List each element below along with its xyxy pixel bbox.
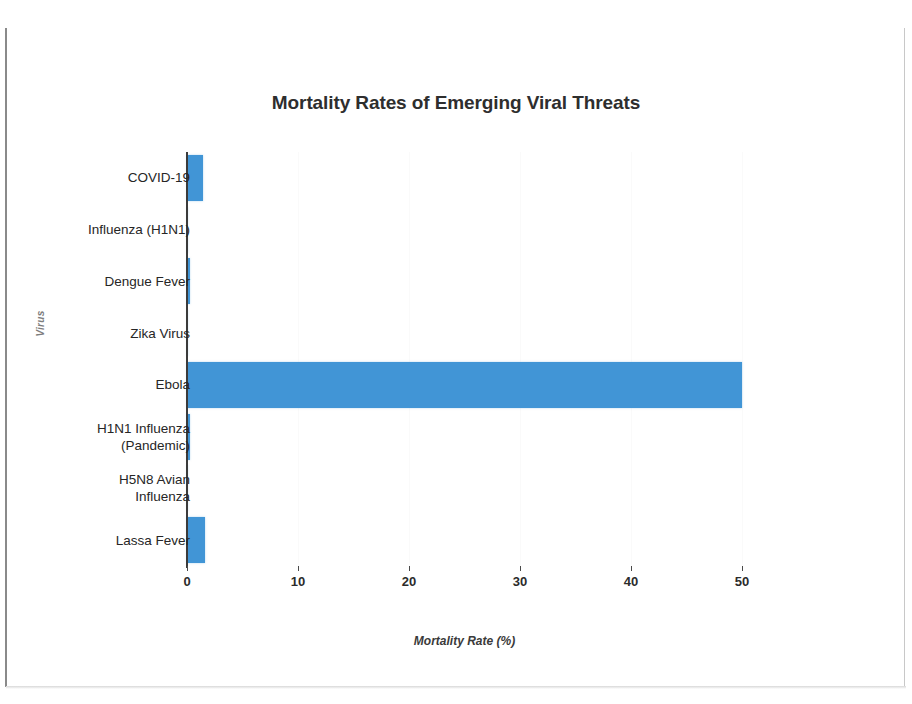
y-tick-label-line: Zika Virus <box>0 325 190 342</box>
gridline <box>742 152 743 566</box>
x-tick-label: 0 <box>157 574 217 589</box>
y-tick-label: COVID-19 <box>0 169 190 186</box>
x-tick-mark <box>631 566 632 571</box>
y-tick-label-line: Ebola <box>0 376 190 393</box>
y-tick-label: Dengue Fever <box>0 273 190 290</box>
x-tick-label: 30 <box>490 574 550 589</box>
y-tick-label: Zika Virus <box>0 325 190 342</box>
x-tick-mark <box>520 566 521 571</box>
y-tick-label-line: Influenza (H1N1) <box>0 221 190 238</box>
x-axis-title: Mortality Rate (%) <box>187 634 742 648</box>
y-tick-label: Ebola <box>0 376 190 393</box>
x-tick-mark <box>187 566 188 571</box>
y-tick-label: H1N1 Influenza(Pandemic) <box>0 420 190 454</box>
y-axis-title: Virus <box>35 294 46 354</box>
x-tick-label: 10 <box>268 574 328 589</box>
x-tick-mark <box>742 566 743 571</box>
y-tick-label-line: Influenza <box>0 488 190 505</box>
bar-row[interactable] <box>187 258 742 304</box>
y-tick-label: H5N8 AvianInfluenza <box>0 471 190 505</box>
x-tick-mark <box>298 566 299 571</box>
bar-row[interactable] <box>187 414 742 460</box>
bar-row[interactable] <box>187 155 742 201</box>
bar-row[interactable] <box>187 517 742 563</box>
y-tick-label-line: H5N8 Avian <box>0 471 190 488</box>
y-tick-label: Influenza (H1N1) <box>0 221 190 238</box>
plot-area <box>187 152 742 566</box>
y-tick-label: Lassa Fever <box>0 532 190 549</box>
y-tick-label-line: H1N1 Influenza <box>0 420 190 437</box>
x-tick-label: 20 <box>379 574 439 589</box>
y-axis-line <box>186 152 188 568</box>
y-tick-label-line: Dengue Fever <box>0 273 190 290</box>
chart-title: Mortality Rates of Emerging Viral Threat… <box>0 92 912 114</box>
bar-row[interactable] <box>187 465 742 511</box>
bar-row[interactable] <box>187 310 742 356</box>
x-tick-mark <box>409 566 410 571</box>
bar-row[interactable] <box>187 207 742 253</box>
bar-row[interactable] <box>187 362 742 408</box>
y-tick-label-line: Lassa Fever <box>0 532 190 549</box>
bar[interactable] <box>187 362 742 408</box>
x-tick-label: 40 <box>601 574 661 589</box>
bar-chart: Mortality Rates of Emerging Viral Threat… <box>0 0 912 704</box>
y-tick-label-line: COVID-19 <box>0 169 190 186</box>
x-tick-label: 50 <box>712 574 772 589</box>
y-tick-label-line: (Pandemic) <box>0 437 190 454</box>
